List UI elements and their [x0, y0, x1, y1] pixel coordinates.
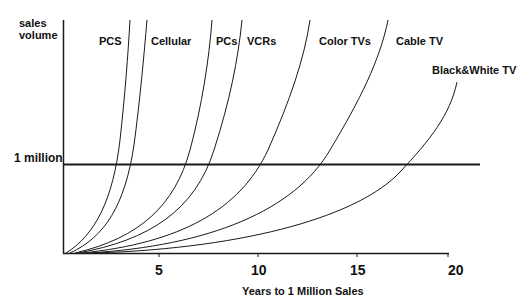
- series-label-color-tvs: Color TVs: [319, 35, 371, 47]
- series-label-pcs: PCS: [99, 35, 122, 47]
- y-axis-label-line2: volume: [19, 29, 58, 41]
- series-label-black-white-tv: Black&White TV: [432, 64, 516, 76]
- x-tick-label-15: 15: [350, 262, 366, 278]
- curve-vcrs: [78, 20, 242, 253]
- series-label-cable-tv: Cable TV: [396, 35, 443, 47]
- x-tick-label-10: 10: [251, 262, 267, 278]
- series-label-vcrs: VCRs: [247, 35, 276, 47]
- series-label-cellular: Cellular: [151, 35, 191, 47]
- x-axis-label: Years to 1 Million Sales: [242, 285, 364, 297]
- series-label-pcs-computers: PCs: [216, 35, 237, 47]
- x-tick-label-5: 5: [155, 262, 163, 278]
- curve-black-white-tv: [95, 82, 457, 253]
- curve-cellular: [70, 20, 147, 253]
- curve-pcs: [66, 20, 130, 253]
- curve-color-tvs: [82, 20, 310, 253]
- curve-cable-tv: [88, 20, 388, 253]
- y-axis-label-line1: sales: [19, 17, 47, 29]
- one-million-label: 1 million: [14, 151, 63, 165]
- x-tick-label-20: 20: [448, 262, 464, 278]
